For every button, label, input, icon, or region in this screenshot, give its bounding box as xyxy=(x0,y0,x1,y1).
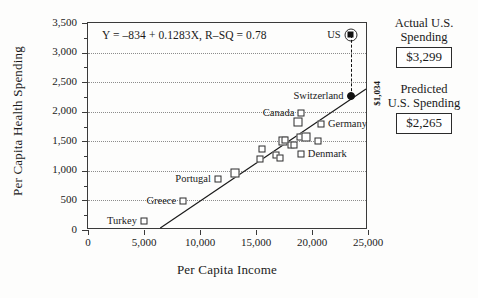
x-axis-tick xyxy=(256,230,257,235)
y-axis-tick-label: 2,500 xyxy=(0,76,77,87)
data-point xyxy=(314,138,321,145)
data-point-label-greece: Greece xyxy=(146,196,176,207)
data-point xyxy=(290,141,297,148)
y-axis-tick-label: 0 xyxy=(0,224,77,235)
data-point-label-portugal: Portugal xyxy=(175,174,211,185)
data-point xyxy=(230,168,239,177)
data-point-portugal xyxy=(214,176,221,183)
x-axis-tick-label: 15,000 xyxy=(241,237,271,248)
side-panel: Actual U.S. Spending $3,299 Predicted U.… xyxy=(374,16,474,134)
data-point-label-turkey: Turkey xyxy=(107,216,137,227)
data-point xyxy=(301,132,310,141)
actual-spending-value: $3,299 xyxy=(396,47,452,68)
chart-figure: Per Capita Health Spending 05,00010,0001… xyxy=(0,0,478,298)
predicted-spending-caption-line1: Predicted xyxy=(374,82,474,96)
predicted-spending-caption: Predicted U.S. Spending xyxy=(374,82,474,110)
x-axis-tick xyxy=(200,230,201,235)
y-axis-tick-label: 3,500 xyxy=(0,17,77,28)
data-point-label-switzerland: Switzerland xyxy=(293,91,343,102)
x-axis-title: Per Capita Income xyxy=(87,262,367,278)
x-axis-tick-label: 0 xyxy=(85,237,91,248)
data-point-turkey xyxy=(141,218,148,225)
actual-spending-caption-line2: Spending xyxy=(374,30,474,44)
data-point-greece xyxy=(180,198,187,205)
x-axis-tick-label: 25,000 xyxy=(353,237,383,248)
data-point xyxy=(276,154,283,161)
predicted-spending-group: Predicted U.S. Spending $2,265 xyxy=(374,82,474,134)
actual-spending-group: Actual U.S. Spending $3,299 xyxy=(374,16,474,68)
data-point xyxy=(258,145,265,152)
regression-equation-label: Y = –834 + 0.1283X, R–SQ = 0.78 xyxy=(102,29,267,41)
actual-spending-caption-line1: Actual U.S. xyxy=(374,16,474,30)
data-point-label-denmark: Denmark xyxy=(308,148,347,159)
data-point-label-canada: Canada xyxy=(263,108,295,119)
actual-spending-caption: Actual U.S. Spending xyxy=(374,16,474,44)
y-axis-tick-label: 3,000 xyxy=(0,46,77,57)
data-point-denmark xyxy=(297,150,304,157)
x-axis-tick xyxy=(88,230,89,235)
predicted-spending-caption-line2: U.S. Spending xyxy=(374,96,474,110)
data-point-label-germany: Germany xyxy=(328,119,367,130)
data-point-label-us: US xyxy=(327,30,340,41)
x-axis-tick xyxy=(312,230,313,235)
x-axis-tick xyxy=(368,230,369,235)
predicted-spending-value: $2,265 xyxy=(396,113,452,134)
data-point-canada xyxy=(298,110,305,117)
x-axis-tick xyxy=(144,230,145,235)
y-axis-tick-label: 1,000 xyxy=(0,164,77,175)
y-axis-tick-label: 2,000 xyxy=(0,105,77,116)
y-axis-tick-label: 1,500 xyxy=(0,135,77,146)
data-point xyxy=(257,156,264,163)
data-point xyxy=(294,117,303,126)
spending-gap-line xyxy=(351,35,352,96)
data-point-germany xyxy=(317,121,324,128)
x-axis-tick-label: 5,000 xyxy=(132,237,157,248)
x-axis-tick-label: 10,000 xyxy=(185,237,215,248)
plot-area: 05,00010,00015,00020,00025,000 TurkeyGre… xyxy=(87,22,367,229)
x-axis-tick-label: 20,000 xyxy=(297,237,327,248)
y-axis-tick-label: 500 xyxy=(0,194,77,205)
